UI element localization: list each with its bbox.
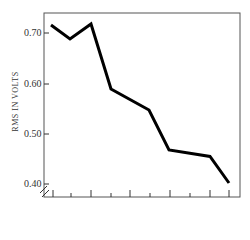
y-tick-label: 0.70 <box>24 27 42 38</box>
y-tick-label: 0.40 <box>24 178 42 189</box>
y-axis-title: RMS IN VOLTS <box>11 67 20 137</box>
x-ticks <box>53 190 229 197</box>
y-tick-label: 0.60 <box>24 78 42 89</box>
y-tick-label: 0.50 <box>24 128 42 139</box>
y-ticks <box>44 33 49 184</box>
data-series-line <box>51 24 229 183</box>
